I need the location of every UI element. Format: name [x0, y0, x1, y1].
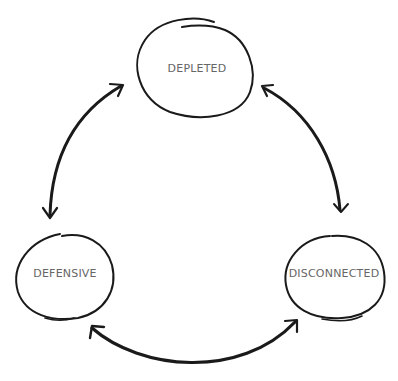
arrow-defensive-disconnected — [92, 322, 295, 363]
arrow-depleted-defensive — [50, 86, 121, 215]
depleted-node-label: DEPLETED — [168, 62, 227, 75]
defensive-node-label: DEFENSIVE — [33, 267, 96, 280]
cycle-diagram — [0, 0, 398, 381]
arrow-depleted-disconnected — [264, 88, 340, 210]
disconnected-node-label: DISCONNECTED — [289, 267, 380, 280]
